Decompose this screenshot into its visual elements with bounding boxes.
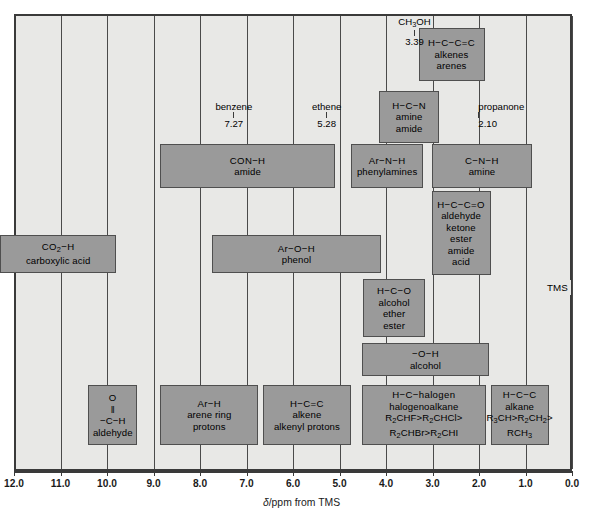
range-box-line: R2CHF>R2CHCl> [385, 412, 462, 426]
range-box-alkane: H−C−CalkaneR3CH>R2CH2>RCH3 [491, 385, 549, 445]
reference-marker-value: 5.28 [312, 118, 341, 129]
range-box-line: phenol [282, 254, 311, 266]
range-box-halogen: H−C−halogenhalogenoalkaneR2CHF>R2CHCl>R2… [362, 385, 486, 445]
axis-title-rest: /ppm from TMS [269, 497, 340, 508]
reference-marker-value: 3.39 [398, 36, 430, 47]
axis-title-symbol: δ [263, 497, 269, 508]
axis-tick-label: 6.0 [286, 478, 300, 489]
axis-tick-10-0 [107, 471, 108, 476]
range-box-line: amide [234, 166, 261, 178]
range-box-line: ketone [446, 222, 475, 234]
range-box-line: alkenyl protons [274, 421, 340, 433]
range-box-line: alcohol [379, 297, 410, 309]
range-box-line: H−C−O [377, 285, 411, 297]
range-box-line: H−C−halogen [392, 389, 455, 401]
nmr-chemical-shift-chart: δ/ppm from TMS CO2−Hcarboxylic acidCON−H… [0, 0, 603, 528]
range-box-hco: H−C−Oalcoholetherester [363, 279, 426, 337]
range-box-line: H−C−C=O [437, 199, 485, 211]
range-box-line: amide [396, 123, 423, 135]
range-box-aldehyde: O‖−C−Haldehyde [88, 385, 137, 445]
axis-tick-3-0 [433, 471, 434, 476]
range-box-line: R3CH>R2CH2> [487, 412, 553, 426]
reference-marker-ethene: ethene5.28 [312, 101, 341, 129]
axis-tick-label: 8.0 [193, 478, 207, 489]
reference-marker-benzene: benzene7.27 [215, 101, 252, 129]
axis-tick-label: 2.0 [472, 478, 486, 489]
gridline-0-0 [572, 16, 573, 469]
axis-tick-6-0 [293, 471, 294, 476]
range-box-line: arene ring [187, 409, 231, 421]
range-box-line: protons [193, 421, 226, 433]
range-box-line: H−C−C [503, 389, 537, 401]
axis-tick-label: 11.0 [51, 478, 70, 489]
range-box-aroh: Ar−O−Hphenol [212, 235, 382, 273]
range-box-line: Ar−O−H [278, 243, 315, 255]
axis-tick-5-0 [340, 471, 341, 476]
range-box-line: ester [450, 233, 472, 245]
range-box-line: aldehyde [441, 210, 481, 222]
axis-tick-4-0 [386, 471, 387, 476]
range-box-line: halogenoalkane [389, 401, 458, 413]
range-box-line: −C−H [100, 415, 125, 427]
range-box-line: amine [469, 166, 496, 178]
axis-tick-11-0 [61, 471, 62, 476]
reference-marker-name: benzene [215, 101, 252, 112]
range-box-cnh: C−N−Hamine [432, 144, 533, 188]
reference-marker-value: 2.10 [478, 118, 524, 129]
range-box-co2h: CO2−Hcarboxylic acid [0, 235, 116, 273]
range-box-line: amine [396, 111, 423, 123]
gridline-9-0 [154, 16, 155, 469]
range-box-line: ether [383, 308, 405, 320]
range-box-line: R2CHBr>R2CHI [389, 427, 458, 441]
range-box-hceqc: H−C=Calkenealkenyl protons [263, 385, 351, 445]
reference-marker-propanone: propanone2.10 [478, 101, 524, 129]
range-box-line: CON−H [230, 155, 266, 167]
axis-tick-label: 0.0 [565, 478, 579, 489]
range-box-line: alkane [505, 401, 534, 413]
axis-tick-label: 10.0 [97, 478, 117, 489]
range-box-line: −O−H [412, 348, 439, 360]
axis-tick-label: 3.0 [425, 478, 439, 489]
range-box-line: alkene [292, 409, 321, 421]
range-box-line: phenylamines [357, 166, 417, 178]
axis-tick-label: 9.0 [146, 478, 160, 489]
axis-tick-1-0 [526, 471, 527, 476]
range-box-line: H−C−C=C [428, 37, 475, 49]
range-box-line: Ar−N−H [369, 155, 406, 167]
range-box-line: ‖ [111, 404, 115, 416]
range-box-line: RCH3 [507, 427, 532, 441]
range-box-line: C−N−H [465, 155, 499, 167]
axis-tick-12-0 [14, 471, 15, 476]
range-box-arnh: Ar−N−Hphenylamines [351, 144, 423, 188]
axis-tick-8-0 [200, 471, 201, 476]
axis-tick-label: 5.0 [332, 478, 346, 489]
reference-marker-value: 7.27 [215, 118, 252, 129]
range-box-line: O [109, 392, 117, 404]
range-box-ooh: −O−Halcohol [362, 343, 489, 376]
reference-marker-name: CH3OH [398, 16, 430, 30]
range-box-line: alkenes [435, 49, 469, 61]
range-box-line: acid [452, 256, 470, 268]
range-box-hcceqo: H−C−C=Oaldehydeketoneesteramideacid [432, 191, 491, 275]
range-box-line: ester [383, 320, 405, 332]
reference-marker-ch3oh: CH3OH3.39 [398, 16, 430, 47]
axis-tick-label: 7.0 [239, 478, 253, 489]
axis-tick-9-0 [154, 471, 155, 476]
range-box-hcn: H−C−Namineamide [379, 91, 439, 143]
range-box-line: arenes [437, 60, 467, 72]
axis-tick-label: 1.0 [518, 478, 532, 489]
range-box-line: aldehyde [93, 427, 133, 439]
axis-tick-label: 4.0 [379, 478, 393, 489]
reference-marker-name: propanone [478, 101, 524, 112]
axis-tick-label: 12.0 [4, 478, 24, 489]
reference-marker-name: ethene [312, 101, 341, 112]
axis-tick-0-0 [572, 471, 573, 476]
range-box-line: CO2−H [42, 241, 75, 255]
reference-marker-tms: TMS [544, 280, 571, 295]
axis-tick-2-0 [479, 471, 480, 476]
range-box-line: H−C−N [392, 100, 426, 112]
range-box-line: amide [448, 245, 475, 257]
range-box-line: alcohol [410, 360, 441, 372]
range-box-line: Ar−H [197, 398, 221, 410]
range-box-line: carboxylic acid [26, 255, 90, 267]
